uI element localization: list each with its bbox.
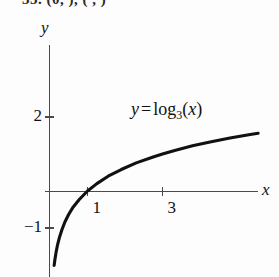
curve-svg <box>0 0 279 277</box>
curve-equation-label: y=log3(x) <box>131 99 202 123</box>
equation-paren-close: ) <box>196 99 202 119</box>
figure: 33. (0, ), ( , ) x y 1 3 2 −1 y=log3(x) <box>0 0 279 277</box>
equation-lhs: y <box>131 99 139 119</box>
equation-argument: x <box>188 99 196 119</box>
equation-function: log <box>153 99 176 119</box>
log-curve <box>54 133 258 265</box>
equation-operator: = <box>139 99 153 119</box>
